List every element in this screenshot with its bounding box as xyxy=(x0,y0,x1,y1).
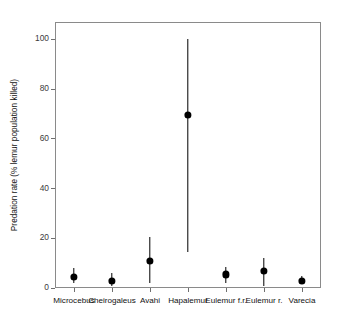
x-tick-mark xyxy=(74,288,75,292)
y-tick-label: 20 xyxy=(40,232,49,243)
x-tick-mark xyxy=(112,288,113,292)
x-tick-label: Eulemur f.r. xyxy=(205,295,246,306)
y-tick-label: 60 xyxy=(40,133,49,144)
x-tick-mark xyxy=(188,288,189,292)
y-tick-label: 40 xyxy=(40,183,49,194)
x-tick-label: Cheirogaleus xyxy=(88,295,136,306)
x-tick-mark xyxy=(302,288,303,292)
x-tick-label: Eulemur r. xyxy=(246,295,283,306)
x-tick-mark xyxy=(226,288,227,292)
y-tick-mark xyxy=(51,39,55,40)
x-tick-mark xyxy=(264,288,265,292)
predation-rate-chart: Predation rate (% lemur population kille… xyxy=(0,0,340,316)
y-tick-mark xyxy=(51,138,55,139)
x-tick-label: Varecia xyxy=(289,295,316,306)
y-tick-mark xyxy=(51,238,55,239)
y-tick-mark xyxy=(51,89,55,90)
y-tick-mark xyxy=(51,188,55,189)
y-tick-label: 80 xyxy=(40,83,49,94)
x-tick-label: Avahi xyxy=(140,295,160,306)
y-tick-label: 0 xyxy=(44,282,49,293)
y-tick-mark xyxy=(51,288,55,289)
error-bar xyxy=(187,39,188,252)
y-axis-title: Predation rate (% lemur population kille… xyxy=(8,22,22,288)
x-tick-label: Hapalemur xyxy=(168,295,208,306)
x-tick-mark xyxy=(150,288,151,292)
y-tick-label: 100 xyxy=(35,33,49,44)
